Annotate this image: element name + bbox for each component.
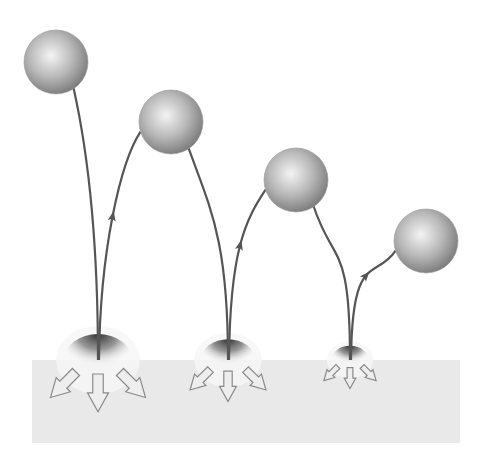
ball-4 [394, 209, 458, 273]
ascent-path [99, 132, 141, 360]
descent-path [314, 206, 350, 360]
ball-3 [264, 148, 328, 212]
diagram-canvas [0, 0, 482, 467]
balls [24, 30, 458, 273]
ball-1 [24, 30, 88, 94]
bouncing-ball-diagram [0, 0, 482, 467]
trajectory-paths [74, 88, 396, 360]
descent-path [74, 88, 98, 360]
ball-2 [139, 90, 203, 154]
descent-path [189, 148, 228, 360]
